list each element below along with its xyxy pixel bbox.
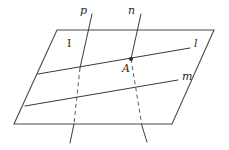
line-m-label: m [182, 70, 192, 83]
line-l-segment [38, 48, 190, 74]
geometry-canvas: I p n l m A [0, 0, 229, 150]
line-n-hidden-segment [131, 59, 142, 126]
line-p-above-plane [80, 14, 92, 68]
line-p-below-plane [70, 124, 74, 143]
line-m-segment [25, 80, 178, 106]
point-a-dot [129, 57, 133, 61]
line-n-above-plane [131, 14, 141, 59]
line-n-below-plane [142, 126, 147, 142]
line-n-label: n [128, 4, 135, 17]
line-l-label: l [194, 37, 198, 50]
geometry-figure: I p n l m A [0, 0, 229, 150]
point-a-label: A [121, 62, 130, 75]
line-p-label: p [80, 4, 87, 17]
plane-label: I [67, 37, 71, 50]
line-p-hidden-segment [74, 68, 80, 124]
